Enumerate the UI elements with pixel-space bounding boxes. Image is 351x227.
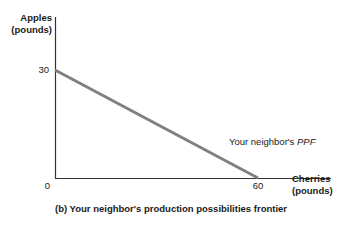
y-axis-tick-label-30: 30 bbox=[24, 64, 49, 76]
x-axis-tick-label-60: 60 bbox=[244, 180, 272, 192]
ppf-series-line bbox=[55, 70, 258, 178]
ppf-annotation-text: Your neighbor's bbox=[229, 136, 297, 147]
x-axis-title: Cherries (pounds) bbox=[292, 173, 333, 197]
ppf-series-annotation: Your neighbor's PPF bbox=[229, 136, 316, 148]
x-axis-title-unit: (pounds) bbox=[292, 185, 333, 197]
y-axis-title-unit: (pounds) bbox=[0, 24, 52, 36]
ppf-annotation-abbr: PPF bbox=[297, 136, 315, 147]
y-axis-title: Apples (pounds) bbox=[0, 12, 52, 36]
figure-caption: (b) Your neighbor's production possibili… bbox=[55, 203, 287, 215]
x-axis-title-name: Cherries bbox=[292, 173, 331, 184]
axis-origin-label: 0 bbox=[34, 180, 50, 192]
y-axis-title-name: Apples bbox=[20, 12, 52, 23]
ppf-chart-figure: Apples (pounds) Cherries (pounds) 30 0 6… bbox=[0, 0, 351, 227]
